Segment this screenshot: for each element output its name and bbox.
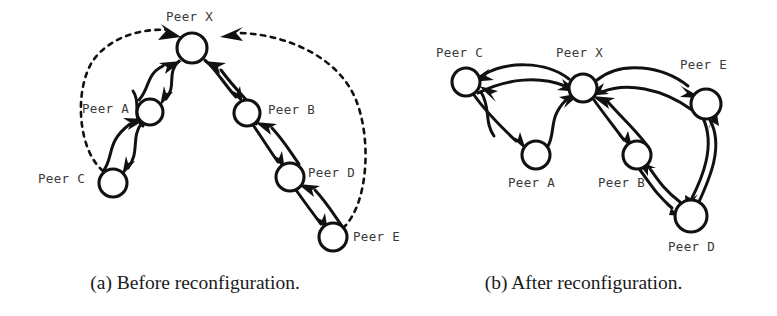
label-peer-c: Peer C <box>436 46 483 60</box>
edge-c-a-solid <box>474 95 526 150</box>
edge-a-c-solid <box>104 118 146 176</box>
node-peer-e[interactable] <box>691 89 721 119</box>
panel-before-reconfiguration: Peer X Peer A Peer B Peer C Peer D Peer … <box>0 0 390 316</box>
node-peer-a[interactable] <box>137 99 163 125</box>
panel-after-reconfiguration: Peer C Peer X Peer E Peer A Peer B Peer … <box>390 0 777 316</box>
label-peer-d: Peer D <box>308 166 355 180</box>
node-peer-x[interactable] <box>177 33 207 63</box>
node-peer-d[interactable] <box>276 163 304 191</box>
label-peer-b: Peer B <box>268 103 315 117</box>
figure-peer-reconfiguration: Peer X Peer A Peer B Peer C Peer D Peer … <box>0 0 777 316</box>
node-peer-d[interactable] <box>675 200 707 232</box>
label-peer-x: Peer X <box>166 10 213 24</box>
node-peer-c[interactable] <box>452 68 480 96</box>
caption-before: (a) Before reconfiguration. <box>0 272 390 294</box>
edge-d-e-solid <box>685 108 719 212</box>
node-peer-x[interactable] <box>569 74 597 102</box>
label-peer-a: Peer A <box>82 102 129 116</box>
label-peer-e: Peer E <box>680 58 727 72</box>
node-peer-b[interactable] <box>623 141 651 169</box>
caption-after: (b) After reconfiguration. <box>390 272 777 294</box>
label-peer-a: Peer A <box>508 176 555 190</box>
edge-a-x-solid <box>479 86 581 146</box>
node-peer-a[interactable] <box>522 141 550 169</box>
label-peer-c: Peer C <box>38 172 85 186</box>
label-peer-b: Peer B <box>598 176 645 190</box>
arrowhead-into-x-left <box>158 24 181 40</box>
diagram-before <box>0 0 390 268</box>
arrowhead-into-x-right <box>220 27 243 41</box>
node-peer-e[interactable] <box>319 223 347 251</box>
label-peer-d: Peer D <box>668 240 715 254</box>
node-peer-b[interactable] <box>234 100 260 126</box>
edge-e-to-x-dashed <box>220 27 366 228</box>
label-peer-x: Peer X <box>556 46 603 60</box>
diagram-after <box>390 0 777 268</box>
node-peer-c[interactable] <box>99 169 127 197</box>
